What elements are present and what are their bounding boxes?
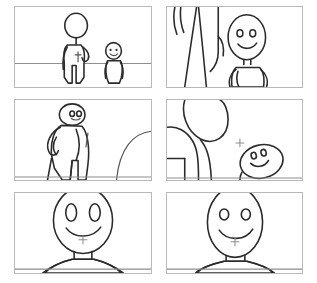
panel-2-low-angle-legs[interactable] bbox=[166, 6, 303, 88]
panel-5-closeup-face-a[interactable] bbox=[14, 192, 152, 274]
storyboard-grid bbox=[0, 0, 317, 283]
panel-5-art bbox=[15, 193, 151, 273]
panel-2-art bbox=[167, 7, 302, 87]
panel-4-over-shoulder[interactable] bbox=[166, 99, 303, 181]
panel-1-art bbox=[15, 7, 151, 87]
panel-4-art bbox=[167, 100, 302, 180]
panel-3-rear-view[interactable] bbox=[14, 99, 152, 181]
panel-1-wide-two-figures[interactable] bbox=[14, 6, 152, 88]
panel-3-art bbox=[15, 100, 151, 180]
panel-6-closeup-face-b[interactable] bbox=[166, 192, 303, 274]
panel-6-art bbox=[167, 193, 302, 273]
